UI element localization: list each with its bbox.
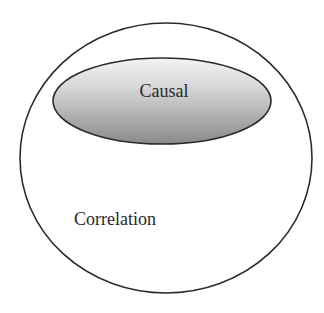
correlation-label: Correlation	[74, 209, 156, 229]
causal-set	[53, 58, 271, 144]
causal-label: Causal	[140, 81, 189, 101]
venn-diagram: Causal Correlation	[0, 0, 324, 313]
